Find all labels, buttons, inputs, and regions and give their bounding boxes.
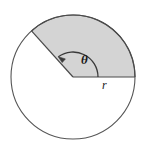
radius-label-r: r <box>102 79 107 91</box>
angle-label-theta: θ <box>81 53 88 66</box>
geometry-canvas <box>0 0 147 148</box>
shaded-sector-region <box>32 15 135 77</box>
circle-sector-figure: θ r <box>0 0 147 148</box>
